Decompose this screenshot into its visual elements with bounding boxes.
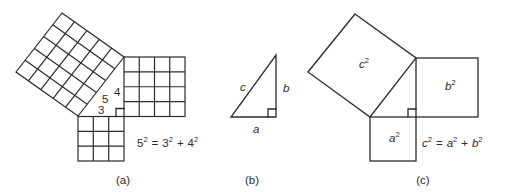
right-triangle (231, 55, 276, 117)
caption-b: (b) (245, 174, 259, 186)
figure-b: c b a (b) (231, 55, 290, 186)
right-angle-marker (116, 109, 124, 117)
vertical-square-label: b2 (445, 78, 456, 92)
horizontal-side-label: 3 (98, 104, 104, 116)
pythagorean-theorem-diagram: 5 4 3 52=32+42 (a) c b a (b) c2 b2 a2 c2… (0, 0, 509, 192)
caption-a: (a) (116, 174, 130, 186)
vertical-side-label: b (283, 82, 290, 94)
equation-a: 52=32+42 (137, 135, 198, 149)
vertical-side-label: 4 (114, 86, 121, 98)
horizontal-side-label: a (253, 123, 259, 135)
vertical-square-grid-4x4 (124, 57, 185, 117)
right-angle-marker (408, 109, 416, 117)
horizontal-square-label: a2 (389, 130, 400, 144)
hyp-label: c (240, 81, 246, 93)
figure-c: c2 b2 a2 c2=a2+b2 (c) (308, 14, 483, 186)
right-angle-marker (268, 109, 276, 117)
equation-c: c2=a2+b2 (422, 135, 483, 149)
figure-a: 5 4 3 52=32+42 (a) (16, 13, 198, 186)
caption-c: (c) (416, 174, 430, 186)
horizontal-square-grid-3x3 (78, 117, 124, 162)
hyp-square-label: c2 (359, 56, 369, 70)
